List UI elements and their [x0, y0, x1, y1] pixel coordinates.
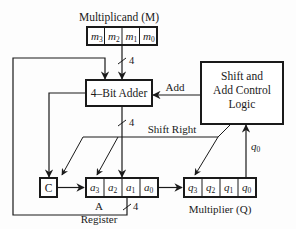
bus-width-top: 4	[129, 55, 135, 66]
carry-label: C	[45, 182, 53, 194]
q0-label: q0	[251, 140, 261, 154]
q-register-title: Multiplier (Q)	[189, 203, 252, 216]
shift-right-signal	[62, 124, 231, 175]
control-line-1: Shift and	[221, 70, 263, 82]
multiplicand-title: Multiplicand (M)	[79, 11, 159, 24]
shift-right-label: Shift Right	[148, 123, 197, 135]
control-line-2: Add Control	[213, 84, 271, 96]
q-register: q3 q2 q1 q0	[184, 178, 256, 197]
multiplicand-register: m3 m2 m1 m0	[87, 27, 157, 45]
four-bit-adder: 4–Bit Adder	[86, 80, 152, 106]
bus-width-mid: 4	[129, 117, 135, 128]
bus-width-bottom: 4	[133, 201, 139, 212]
add-signal-label: Add	[166, 81, 185, 93]
a-register-title-1: A	[95, 200, 103, 212]
adder-label: 4–Bit Adder	[91, 87, 148, 99]
a-register: a3 a2 a1 a0	[86, 178, 158, 197]
control-line-3: Logic	[229, 98, 256, 111]
shift-add-control-logic: Shift and Add Control Logic	[201, 62, 283, 124]
shift-add-multiplier-diagram: Multiplicand (M) m3 m2 m1 m0 4 4 4–Bit A…	[0, 0, 296, 229]
a-register-title-2: Register	[81, 213, 118, 225]
carry-flipflop: C	[40, 178, 57, 197]
